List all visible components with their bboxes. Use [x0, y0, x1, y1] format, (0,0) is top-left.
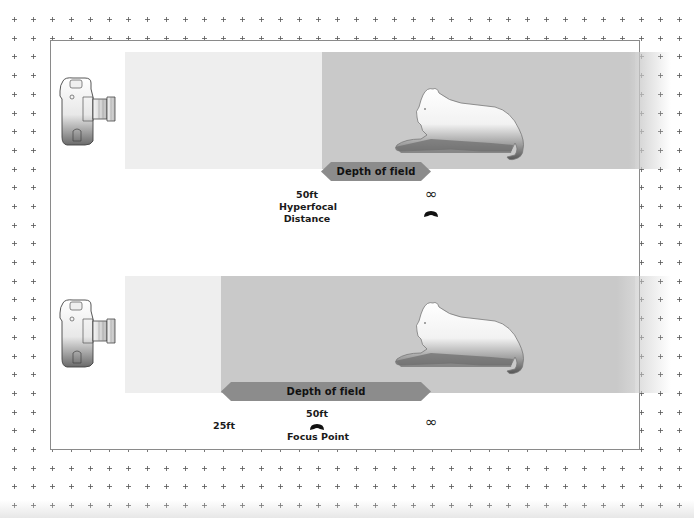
focus-marker-icon [310, 423, 324, 430]
depth-of-field-label: Depth of field [337, 166, 416, 177]
near-limit-label: 25ft [209, 420, 239, 432]
depth-of-field-arrow: Depth of field [221, 382, 431, 401]
lion-icon [391, 85, 541, 165]
camera-icon [57, 75, 119, 147]
infinity-symbol: ∞ [425, 415, 438, 429]
focus-point-label: Focus Point [287, 431, 347, 443]
infinity-symbol: ∞ [425, 187, 438, 201]
distance-value: 50ft [279, 189, 335, 201]
bottom-fade [0, 500, 694, 518]
distance-caption-line2: Distance [279, 213, 335, 225]
depth-of-field-arrow: Depth of field [321, 162, 431, 181]
lion-icon [391, 299, 541, 379]
near-blur-zone [125, 52, 635, 169]
focus-distance-value: 50ft [299, 408, 335, 420]
hyperfocal-distance-label: 50ft Hyperfocal Distance [279, 189, 335, 225]
camera-icon [57, 297, 119, 369]
near-blur-zone [125, 276, 635, 393]
diagram-frame: Depth of field 50ft Hyperfocal Distance … [50, 40, 640, 450]
distance-caption-line1: Hyperfocal [279, 201, 335, 213]
focus-marker-icon [424, 210, 438, 217]
depth-of-field-label: Depth of field [287, 386, 366, 397]
